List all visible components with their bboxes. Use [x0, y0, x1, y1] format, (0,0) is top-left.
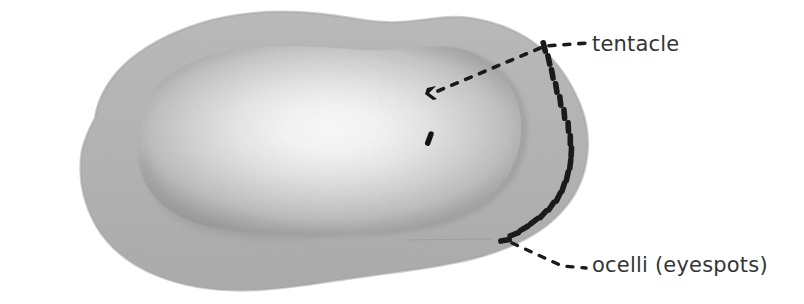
ocellus-mark [565, 120, 571, 134]
flatworm-illustration: tentacle ocelli (eyespots) [0, 0, 804, 304]
ocellus-mark [568, 145, 574, 159]
organism-body [81, 12, 588, 291]
label-tentacle: tentacle [592, 32, 679, 56]
ocelli-leader-line [512, 243, 586, 268]
ocellus-mark [568, 133, 574, 147]
label-ocelli: ocelli (eyespots) [592, 253, 768, 277]
dome-rim-shading [137, 46, 521, 234]
figure-container: tentacle ocelli (eyespots) [0, 0, 804, 304]
